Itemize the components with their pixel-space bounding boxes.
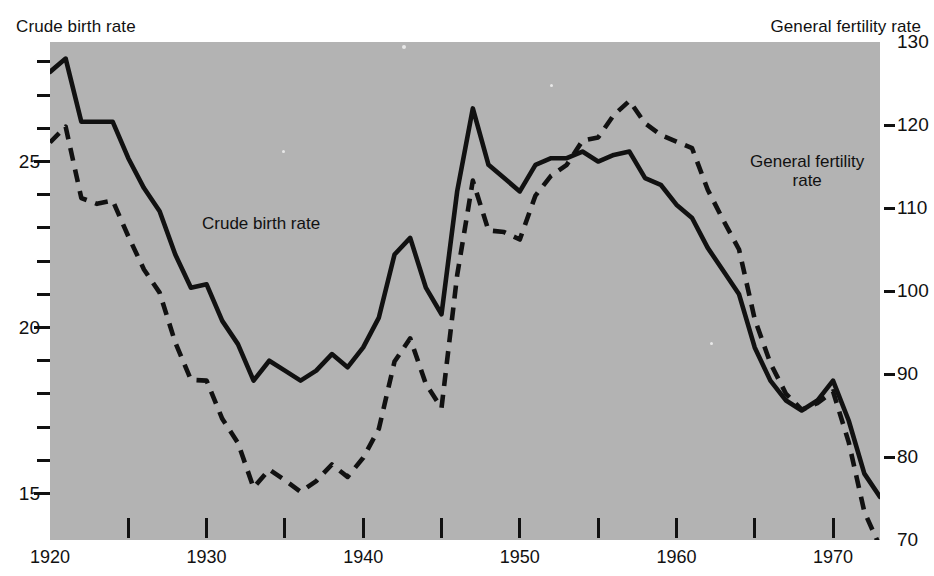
paper-speck	[550, 84, 553, 87]
chart-canvas	[50, 42, 880, 540]
x-axis-tick	[597, 518, 600, 538]
x-axis-tick	[283, 518, 286, 538]
x-axis-tick-label: 1940	[343, 548, 383, 566]
x-axis-tick	[832, 518, 835, 538]
chart-figure: Crude birth rate General fertility rate …	[0, 0, 934, 576]
y2-axis-tick-label: 90	[897, 364, 918, 383]
x-axis-tick	[362, 518, 365, 538]
y-axis-tick	[37, 94, 50, 97]
x-axis-tick	[753, 518, 756, 538]
y2-axis-tick	[884, 456, 895, 459]
y2-axis-tick-label: 80	[897, 447, 918, 466]
y2-axis-tick-label: 100	[897, 281, 929, 300]
y-axis-tick-label: 25	[19, 152, 40, 171]
y-axis-tick-label: 15	[19, 484, 40, 503]
x-axis-tick-label: 1970	[813, 548, 853, 566]
y2-axis-tick-label: 70	[897, 530, 918, 549]
y-axis-tick	[37, 226, 50, 229]
paper-speck	[282, 150, 285, 153]
x-axis-tick-label: 1930	[187, 548, 227, 566]
y-axis-tick	[37, 127, 50, 130]
y-axis-tick-label: 20	[19, 318, 40, 337]
y2-axis-tick	[884, 124, 895, 127]
y2-axis-tick-label: 120	[897, 115, 929, 134]
x-axis-tick	[205, 518, 208, 538]
y-axis-tick	[37, 392, 50, 395]
y-axis-tick	[37, 459, 50, 462]
x-axis-tick-label: 1950	[500, 548, 540, 566]
annotation-crude-birth-rate: Crude birth rate	[202, 214, 320, 233]
x-axis-tick	[675, 518, 678, 538]
y2-axis-tick	[884, 290, 895, 293]
x-axis-tick-label: 1920	[30, 548, 70, 566]
annotation-gfr-line1: General fertility	[750, 152, 864, 171]
x-axis-tick	[518, 518, 521, 538]
y-axis-tick	[37, 359, 50, 362]
annotation-general-fertility-rate: General fertilityrate	[750, 152, 864, 190]
x-axis-tick	[440, 518, 443, 538]
paper-speck	[710, 342, 713, 345]
annotation-gfr-line2: rate	[793, 171, 822, 190]
paper-speck	[402, 45, 406, 49]
y-axis-tick	[37, 193, 50, 196]
left-axis-caption: Crude birth rate	[16, 17, 136, 37]
plot-area: Crude birth rate General fertilityrate	[50, 42, 880, 540]
y-axis-tick	[37, 293, 50, 296]
y-axis-tick	[37, 426, 50, 429]
y-axis-tick	[37, 60, 50, 63]
y2-axis-tick	[884, 207, 895, 210]
y2-axis-tick-label: 130	[897, 32, 929, 51]
x-axis-tick	[127, 518, 130, 538]
x-axis-tick-label: 1960	[656, 548, 696, 566]
series-crude-birth-rate	[50, 59, 880, 497]
y-axis-tick	[37, 260, 50, 263]
y2-axis-tick	[884, 373, 895, 376]
y2-axis-tick-label: 110	[897, 198, 927, 217]
